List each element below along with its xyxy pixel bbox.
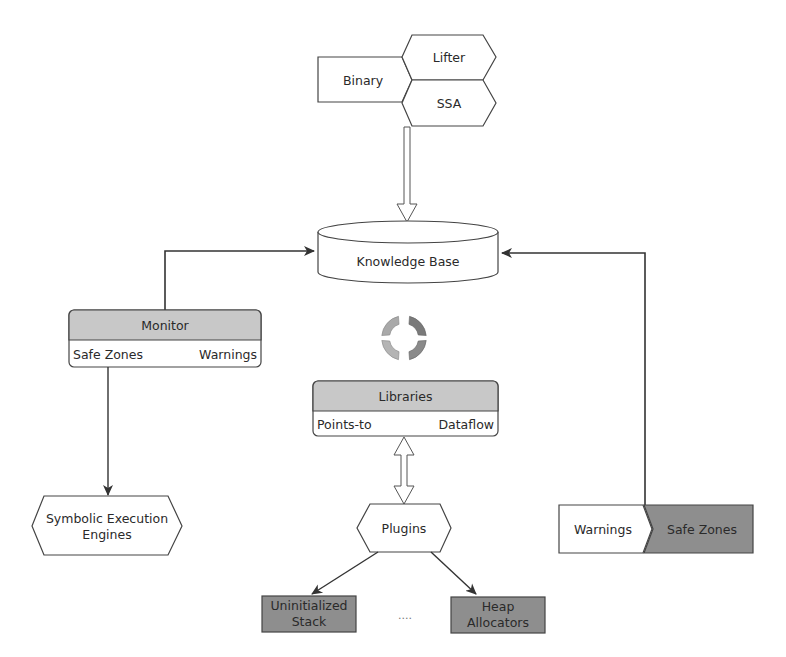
ssa-to-kb-arrow bbox=[397, 127, 417, 222]
plugins-label: Plugins bbox=[357, 521, 451, 536]
libraries-title: Libraries bbox=[313, 389, 498, 404]
libraries-points-to: Points-to bbox=[317, 417, 372, 432]
binary-label: Binary bbox=[318, 73, 408, 88]
libraries-dataflow: Dataflow bbox=[420, 417, 494, 432]
symbolic-line2: Engines bbox=[30, 527, 184, 542]
libraries-plugins-bidirectional-arrow bbox=[394, 437, 414, 504]
uninitialized-line1: Uninitialized bbox=[262, 598, 356, 613]
monitor-safe-zones: Safe Zones bbox=[73, 347, 143, 362]
cycle-icon bbox=[381, 316, 428, 359]
uninitialized-line2: Stack bbox=[262, 614, 356, 629]
output-to-kb-connector bbox=[502, 253, 645, 505]
heap-line1: Heap bbox=[451, 599, 545, 614]
ssa-label: SSA bbox=[405, 96, 493, 111]
plugins-to-uninit-arrow bbox=[312, 552, 378, 594]
output-safe-zones: Safe Zones bbox=[654, 522, 750, 537]
monitor-title: Monitor bbox=[69, 318, 261, 333]
monitor-warnings: Warnings bbox=[190, 347, 257, 362]
knowledge-base-label: Knowledge Base bbox=[318, 254, 498, 269]
plugins-ellipsis: .... bbox=[380, 608, 430, 623]
monitor-to-kb-connector bbox=[165, 251, 314, 310]
heap-line2: Allocators bbox=[451, 615, 545, 630]
lifter-label: Lifter bbox=[405, 50, 493, 65]
symbolic-line1: Symbolic Execution bbox=[30, 511, 184, 526]
plugins-to-heap-arrow bbox=[431, 552, 476, 594]
knowledge-base-cylinder bbox=[318, 221, 498, 283]
output-warnings: Warnings bbox=[563, 522, 643, 537]
